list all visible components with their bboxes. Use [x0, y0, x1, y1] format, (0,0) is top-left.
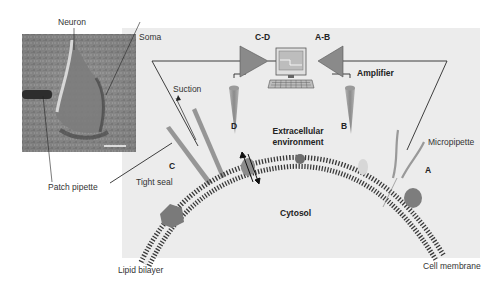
label-extracellular: Extracellular environment	[268, 126, 328, 148]
patch-clamp-diagram	[0, 0, 499, 287]
label-cell-membrane: Cell membrane	[423, 262, 481, 271]
channel-protein-small	[295, 154, 305, 164]
label-micropipette: Micropipette	[428, 138, 474, 147]
label-pipette-c: C	[169, 162, 175, 171]
label-lipid-bilayer: Lipid bilayer	[118, 266, 163, 275]
label-neuron: Neuron	[58, 18, 86, 27]
channel-protein-right	[404, 188, 422, 208]
channel-protein-pale	[358, 159, 368, 175]
label-amplifier: Amplifier	[357, 69, 394, 78]
label-patch-pipette: Patch pipette	[48, 183, 98, 192]
label-pipette-b: B	[341, 122, 347, 131]
label-tight-seal: Tight seal	[136, 178, 173, 187]
label-soma: Soma	[139, 33, 161, 42]
label-amplifier-ab: A-B	[315, 33, 330, 42]
label-cytosol: Cytosol	[280, 209, 311, 218]
label-extracellular-line1: Extracellular	[268, 126, 328, 137]
label-suction: Suction	[173, 85, 201, 94]
label-amplifier-cd: C-D	[255, 33, 270, 42]
label-pipette-a: A	[425, 166, 431, 175]
label-extracellular-line2: environment	[268, 137, 328, 148]
label-pipette-d: D	[231, 122, 237, 131]
